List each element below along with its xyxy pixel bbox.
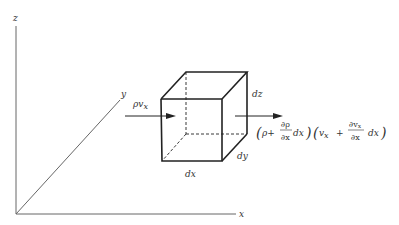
x-axis-label: x	[239, 209, 244, 219]
svg-text:∂vx: ∂vx	[349, 120, 362, 129]
svg-text:∂x: ∂x	[351, 133, 360, 142]
inflow-arrow	[125, 113, 176, 119]
outflow-expression: ( ρ+ ∂ρ ∂x dx ) ( vx + ∂vx ∂x dx )	[256, 120, 386, 142]
coordinate-axes	[16, 26, 236, 214]
svg-text:+: +	[336, 128, 344, 138]
svg-text:dx: dx	[293, 128, 304, 138]
svg-text:): )	[380, 125, 386, 141]
svg-text:vx: vx	[319, 128, 329, 140]
svg-text:∂ρ: ∂ρ	[281, 120, 290, 129]
svg-text:∂x: ∂x	[281, 133, 290, 142]
dx-label: dx	[185, 169, 196, 179]
svg-text:dx: dx	[368, 128, 379, 138]
dz-label: dz	[252, 89, 263, 99]
y-axis-label: y	[120, 89, 127, 99]
svg-text:ρ+: ρ+	[261, 128, 275, 138]
inflow-label: ρvx	[132, 99, 148, 111]
svg-text:): )	[305, 125, 311, 141]
z-axis-label: z	[12, 13, 18, 23]
outflow-arrow	[235, 113, 283, 119]
y-axis	[16, 100, 120, 214]
control-volume-diagram: z y x dz dy dx ρvx ( ρ+	[0, 0, 399, 225]
dy-label: dy	[237, 151, 249, 161]
